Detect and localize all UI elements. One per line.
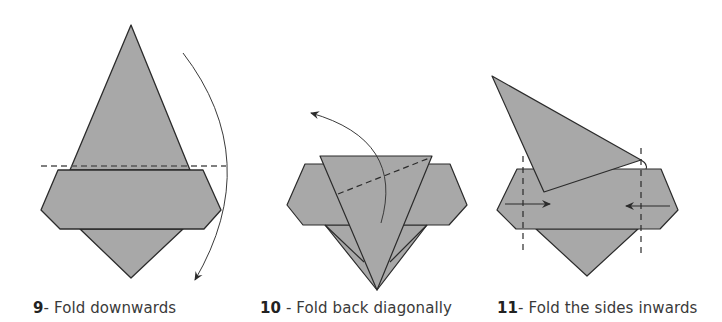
top-triangle-shape (70, 25, 190, 170)
flap-edge (641, 160, 646, 169)
hexagon-band-shape (41, 170, 221, 229)
step-label: Fold downwards (54, 299, 176, 317)
step-9-figure (41, 25, 227, 280)
step-number: 9 (33, 299, 44, 317)
step-number: 11 (497, 299, 518, 317)
step-11-figure (492, 76, 678, 276)
origami-diagram (0, 0, 722, 322)
step-10-caption: 10 - Fold back diagonally (260, 299, 452, 317)
bottom-diamond-shape (536, 229, 638, 276)
step-11-caption: 11- Fold the sides inwards (497, 299, 697, 317)
step-10-figure (287, 113, 467, 290)
step-label: Fold back diagonally (296, 299, 452, 317)
step-label: Fold the sides inwards (528, 299, 697, 317)
step-number: 10 (260, 299, 281, 317)
step-9-caption: 9- Fold downwards (33, 299, 176, 317)
bottom-diamond-shape (80, 229, 183, 278)
